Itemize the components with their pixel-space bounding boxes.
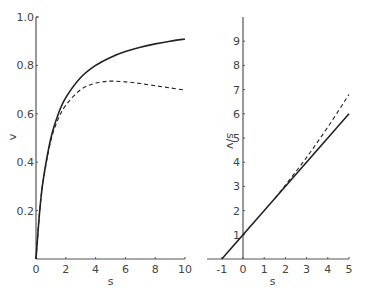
x-tick-label: 1 [261,263,268,276]
series-solid [36,39,185,259]
y-tick-label: 3 [233,180,240,193]
y-tick-label: 1.0 [17,11,35,24]
x-axis-label: s [270,275,276,288]
chart-canvas: 02468100.20.40.60.81.0sv -10123451234567… [0,0,365,290]
series-dashed [275,94,349,198]
y-axis-label: s/v [224,133,237,149]
x-axis-label: s [108,275,114,288]
series-dashed [36,81,185,259]
x-tick-label: 2 [282,263,289,276]
series-solid [222,114,349,259]
x-tick-label: 2 [62,263,69,276]
y-tick-label: 6 [233,108,240,121]
y-tick-label: 4 [233,156,240,169]
x-tick-label: 3 [303,263,310,276]
y-tick-label: 8 [233,59,240,72]
right-chart-s-over-v-vs-s: -1012345123456789ss/v [207,17,353,288]
x-tick-label: 5 [346,263,353,276]
x-tick-label: 0 [33,263,40,276]
y-tick-label: 7 [233,84,240,97]
y-tick-label: 0.6 [17,108,35,121]
y-tick-label: 2 [233,205,240,218]
y-tick-label: 9 [233,35,240,48]
y-tick-label: 0.2 [17,205,35,218]
left-chart-v-vs-s: 02468100.20.40.60.81.0sv [6,11,192,288]
x-tick-label: 4 [324,263,331,276]
x-tick-label: 8 [152,263,159,276]
x-tick-label: -1 [216,263,227,276]
x-tick-label: 10 [178,263,192,276]
y-axis-label: v [6,133,19,140]
x-tick-label: 0 [240,263,247,276]
x-tick-label: 4 [92,263,99,276]
x-tick-label: 6 [122,263,129,276]
y-tick-label: 0.8 [17,59,35,72]
y-tick-label: 0.4 [17,156,35,169]
